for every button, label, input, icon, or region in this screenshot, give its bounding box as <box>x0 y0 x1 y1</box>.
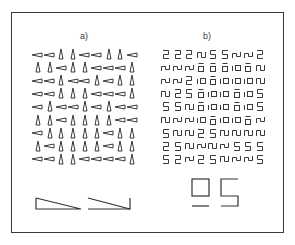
horizontal-element-icon <box>32 52 43 58</box>
wave-n-glyph-icon <box>161 65 170 71</box>
texture-cell <box>242 100 254 113</box>
wave-n-glyph-icon <box>173 65 182 71</box>
bar-square-glyph-icon <box>220 117 229 123</box>
two-glyph-icon <box>198 129 204 138</box>
left-triangle-element <box>35 197 83 211</box>
two-glyph-icon <box>257 50 263 59</box>
texture-cell <box>160 100 172 113</box>
texture-cell <box>160 114 172 127</box>
bar-square-glyph-icon <box>244 91 253 97</box>
horizontal-element-icon <box>44 52 55 58</box>
texture-cell <box>242 74 254 87</box>
vertical-element-icon <box>82 101 88 112</box>
texture-cell <box>103 153 115 166</box>
horizontal-element-icon <box>56 104 67 110</box>
texture-cell <box>254 140 266 153</box>
texture-cell <box>67 74 79 87</box>
vertical-element-icon <box>94 128 100 139</box>
texture-cell <box>56 127 68 140</box>
texture-cell <box>231 140 243 153</box>
texture-cell <box>56 114 68 127</box>
horizontal-element-icon <box>103 130 114 136</box>
vertical-element-icon <box>35 62 41 73</box>
texture-cell <box>254 74 266 87</box>
texture-cell <box>242 127 254 140</box>
texture-cell <box>184 127 196 140</box>
horizontal-element-icon <box>103 78 114 84</box>
vertical-element-icon <box>82 115 88 126</box>
texture-cell <box>172 48 184 61</box>
square-bar-element <box>190 178 212 210</box>
vertical-element-icon <box>106 49 112 60</box>
five-glyph-icon <box>257 155 263 164</box>
vertical-element-icon <box>129 88 135 99</box>
five-glyph-icon <box>163 102 169 111</box>
texture-cell <box>103 74 115 87</box>
horizontal-element-icon <box>91 65 102 71</box>
texture-cell <box>32 140 44 153</box>
texture-cell <box>79 127 91 140</box>
texture-cell <box>56 100 68 113</box>
horizontal-element-icon <box>103 91 114 97</box>
wave-s-glyph-icon <box>185 130 194 136</box>
texture-cell <box>91 61 103 74</box>
texture-cell <box>254 127 266 140</box>
vertical-element-icon <box>129 141 135 152</box>
five-glyph-icon <box>210 155 216 164</box>
texture-cell <box>44 74 56 87</box>
bar-square-glyph-icon <box>244 104 253 110</box>
vertical-element-icon <box>47 62 53 73</box>
square-bar-glyph-icon <box>198 63 204 72</box>
texture-cell <box>32 100 44 113</box>
bar-square-glyph-icon <box>197 117 206 123</box>
bar-square-glyph-icon <box>208 104 217 110</box>
texture-cell <box>172 61 184 74</box>
square-bar-glyph-icon <box>222 63 228 72</box>
texture-cell <box>184 48 196 61</box>
texture-cell <box>172 74 184 87</box>
bar-square-glyph-icon <box>197 78 206 84</box>
vertical-element-icon <box>94 75 100 86</box>
two-glyph-icon <box>175 89 181 98</box>
wave-n-glyph-icon <box>161 78 170 84</box>
texture-cell <box>126 48 138 61</box>
texture-cell <box>160 87 172 100</box>
two-glyph-icon <box>175 50 181 59</box>
vertical-element-icon <box>82 128 88 139</box>
texture-cell <box>231 127 243 140</box>
horizontal-element-icon <box>103 65 114 71</box>
horizontal-element-icon <box>56 65 67 71</box>
horizontal-element-icon <box>32 130 43 136</box>
texture-cell <box>160 153 172 166</box>
texture-cell <box>254 87 266 100</box>
texture-cell <box>195 87 207 100</box>
texture-cell <box>231 61 243 74</box>
wave-n-glyph-icon <box>244 52 253 58</box>
texture-cell <box>44 100 56 113</box>
texture-cell <box>126 114 138 127</box>
texture-cell <box>114 140 126 153</box>
vertical-element-icon <box>94 115 100 126</box>
wave-n-glyph-icon <box>232 156 241 162</box>
vertical-element-icon <box>129 154 135 165</box>
texture-cell <box>160 127 172 140</box>
vertical-element-icon <box>82 62 88 73</box>
texture-grid-a <box>32 48 138 166</box>
texture-cell <box>103 114 115 127</box>
texture-cell <box>79 140 91 153</box>
vertical-element-icon <box>117 141 123 152</box>
five-glyph-icon <box>245 142 251 151</box>
vertical-element-icon <box>129 75 135 86</box>
horizontal-element-icon <box>115 117 126 123</box>
wave-s-glyph-icon <box>244 130 253 136</box>
texture-cell <box>67 114 79 127</box>
vertical-element-icon <box>70 62 76 73</box>
texture-cell <box>91 48 103 61</box>
texture-cell <box>219 61 231 74</box>
wave-n-glyph-icon <box>185 65 194 71</box>
horizontal-element-icon <box>91 52 102 58</box>
horizontal-element-icon <box>32 156 43 162</box>
vertical-element-icon <box>35 115 41 126</box>
texture-cell <box>32 48 44 61</box>
horizontal-element-icon <box>127 52 138 58</box>
